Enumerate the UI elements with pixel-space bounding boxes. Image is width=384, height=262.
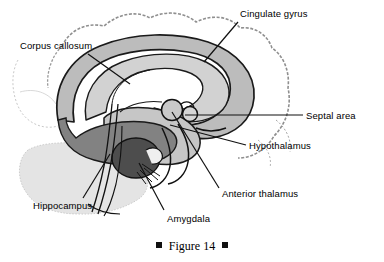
figure-caption-text: Figure 14	[169, 239, 215, 253]
square-bullet-left	[156, 242, 162, 248]
figure-caption: Figure 14	[0, 238, 384, 254]
label-amygdala: Amygdala	[167, 213, 210, 224]
label-hypothalamus: Hypothalamus	[249, 140, 311, 151]
label-corpus-callosum: Corpus callosum	[20, 40, 92, 51]
label-anterior-thalamus: Anterior thalamus	[222, 188, 298, 199]
label-cingulate-gyrus: Cingulate gyrus	[240, 8, 308, 19]
septal-nuclei-shape	[162, 100, 198, 122]
figure-container: Cingulate gyrus Corpus callosum Septal a…	[0, 0, 384, 262]
label-hippocampus: Hippocampus	[33, 200, 92, 211]
square-bullet-right	[222, 242, 228, 248]
label-septal-area: Septal area	[306, 110, 356, 121]
